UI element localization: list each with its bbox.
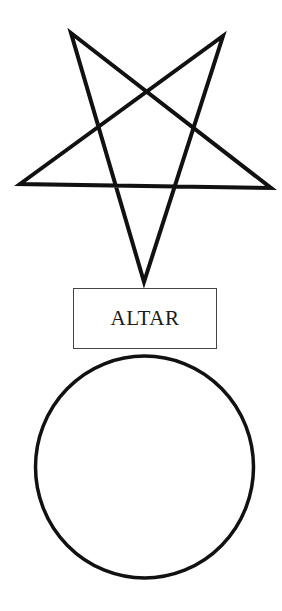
altar-box: ALTAR (73, 288, 217, 349)
altar-label: ALTAR (111, 306, 180, 331)
circle-shape (36, 356, 254, 578)
pentagram-icon (20, 33, 271, 282)
